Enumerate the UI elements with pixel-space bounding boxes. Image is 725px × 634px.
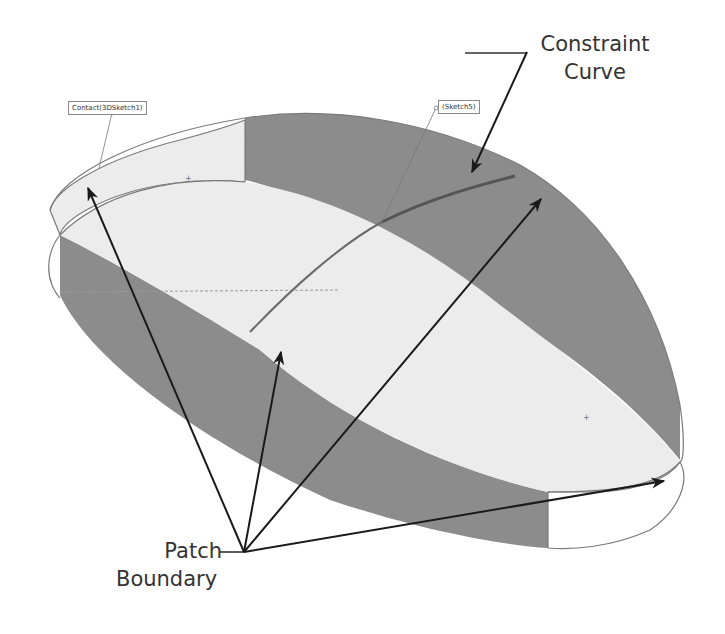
patch-label-line2: Boundary [110,565,230,593]
constraint-label-line1: Constraint [530,30,660,58]
constraint-label-line2: Curve [530,58,660,86]
patch-boundary-label: Patch Boundary [110,537,230,593]
sketch5-tag: (Sketch5) [438,100,480,114]
patch-label-line1: Patch [110,537,230,565]
left-end-edge [49,235,60,298]
svg-text:+: + [185,174,192,183]
constraint-callout-arrow [470,51,527,52]
constraint-curve-label: Constraint Curve [530,30,660,86]
surface-diagram: + + [0,0,725,634]
contact-3dsketch-tag: Contact(3DSketch1) [68,101,147,115]
svg-text:+: + [583,413,590,422]
